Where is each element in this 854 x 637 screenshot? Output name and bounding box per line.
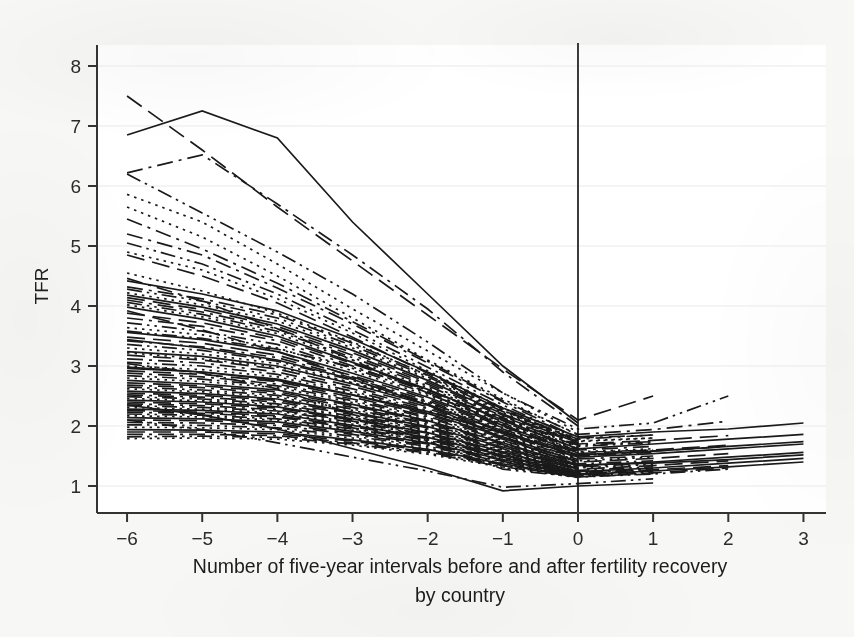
svg-text:1: 1 [70, 476, 81, 497]
svg-text:5: 5 [70, 236, 81, 257]
spaghetti-chart: −6−5−4−3−2−1012312345678 TFR Number of f… [0, 0, 854, 637]
svg-text:8: 8 [70, 56, 81, 77]
svg-text:3: 3 [70, 356, 81, 377]
svg-text:−1: −1 [492, 528, 514, 549]
y-axis-title: TFR [31, 268, 52, 305]
svg-text:2: 2 [723, 528, 734, 549]
svg-text:−5: −5 [191, 528, 213, 549]
svg-text:3: 3 [798, 528, 809, 549]
gridlines [97, 66, 826, 486]
figure-root: −6−5−4−3−2−1012312345678 TFR Number of f… [0, 0, 854, 637]
svg-text:−3: −3 [342, 528, 364, 549]
svg-text:4: 4 [70, 296, 81, 317]
series-lines [127, 96, 803, 491]
svg-text:7: 7 [70, 116, 81, 137]
x-axis-caption-line-1: Number of five-year intervals before and… [193, 555, 728, 577]
tick-labels: −6−5−4−3−2−1012312345678 [70, 56, 808, 549]
svg-text:2: 2 [70, 416, 81, 437]
svg-text:−2: −2 [417, 528, 439, 549]
x-axis-caption-line-2: by country [415, 584, 505, 606]
svg-text:−4: −4 [267, 528, 289, 549]
svg-text:6: 6 [70, 176, 81, 197]
svg-text:−6: −6 [116, 528, 138, 549]
svg-text:0: 0 [573, 528, 584, 549]
svg-text:1: 1 [648, 528, 659, 549]
